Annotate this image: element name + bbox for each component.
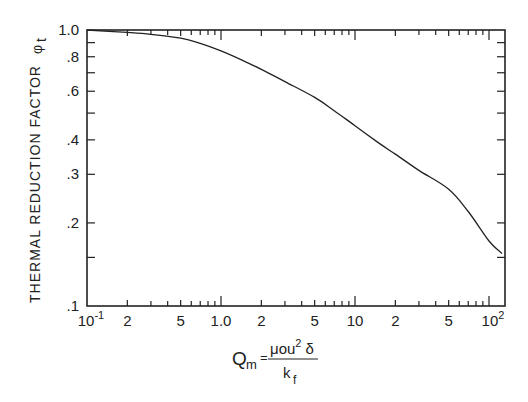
y-tick-label: .1 — [66, 297, 79, 314]
axis-ticks — [87, 30, 505, 306]
x-tick-label: 10-1 — [78, 309, 104, 329]
numerator-base: μou — [270, 340, 295, 357]
q-symbol: Q — [232, 348, 247, 369]
x-tick-label: 5 — [310, 312, 318, 329]
y-tick-label: .2 — [66, 214, 79, 231]
plot-border — [87, 30, 505, 306]
x-tick-label: 2 — [257, 312, 265, 329]
x-tick-label: 1.0 — [211, 312, 232, 329]
y-tick-label: .8 — [66, 48, 79, 65]
numerator: μou2 δ — [270, 337, 314, 357]
x-tick-label: 5 — [444, 312, 452, 329]
y-tick-label: .4 — [66, 131, 79, 148]
x-axis-title: Q m = μou2 δ k f — [232, 337, 318, 387]
q-subscript: m — [246, 357, 257, 372]
denominator: k — [283, 364, 291, 381]
equals-sign: = — [260, 350, 268, 365]
numerator-delta: δ — [301, 340, 314, 357]
x-tick-label: 2 — [391, 312, 399, 329]
y-tick-label: 1.0 — [58, 21, 79, 38]
x-tick-label: 2 — [123, 312, 131, 329]
x-tick-label: 102 — [482, 309, 505, 329]
phi-symbol: φ — [29, 44, 45, 54]
denominator-subscript: f — [293, 373, 297, 387]
phi-subscript: t — [33, 37, 49, 42]
y-tick-label: .6 — [66, 82, 79, 99]
y-axis-title-text: THERMAL REDUCTION FACTOR — [27, 65, 43, 303]
y-tick-labels: 1.0.8.6.4.3.2.1 — [58, 21, 79, 314]
thermal-reduction-chart: 10-1251.0251025102 1.0.8.6.4.3.2.1 THERM… — [0, 0, 528, 402]
data-curve — [87, 30, 502, 254]
y-axis-title: THERMAL REDUCTION FACTOR φ t — [27, 37, 49, 303]
y-tick-label: .3 — [66, 165, 79, 182]
x-tick-label: 10 — [347, 312, 364, 329]
x-tick-labels: 10-1251.0251025102 — [78, 309, 505, 329]
x-tick-label: 5 — [176, 312, 184, 329]
plot-frame — [87, 30, 505, 306]
